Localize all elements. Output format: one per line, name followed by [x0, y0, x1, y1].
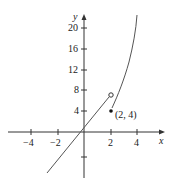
y-tick-label: 8 [74, 85, 79, 95]
x-tick-label: 4 [134, 138, 139, 148]
y-tick-label: 4 [74, 106, 79, 116]
y-axis-label: y [73, 12, 77, 22]
y-tick-label: 12 [68, 65, 78, 75]
point-annotation: (2, 4) [115, 110, 137, 120]
x-axis-label: x [159, 136, 163, 146]
x-tick-label: −4 [23, 138, 34, 148]
chart-plot [0, 0, 174, 182]
filled-dot-marker [109, 109, 113, 113]
y-axis-arrow-icon [82, 14, 87, 20]
x-tick-label: −2 [50, 138, 61, 148]
y-tick-label: 16 [68, 44, 78, 54]
open-circle-marker [109, 93, 113, 97]
y-tick-label: 20 [68, 23, 78, 33]
curve-segment [112, 15, 137, 108]
x-axis-arrow-icon [159, 130, 165, 135]
x-tick-label: 2 [108, 138, 113, 148]
